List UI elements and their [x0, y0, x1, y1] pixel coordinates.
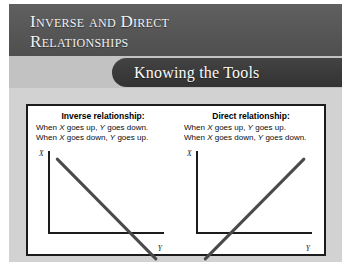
- text-pre: When: [184, 133, 207, 142]
- chart-direct-y-axis-label: X: [187, 149, 192, 158]
- text-post: goes up.: [253, 123, 286, 132]
- text-post: goes down.: [105, 123, 148, 132]
- chart-inverse-plot: [48, 151, 164, 234]
- title-banner: Inverse and Direct Relationships: [9, 4, 342, 56]
- panel-direct-line-2: When X goes down, Y goes down.: [184, 133, 318, 143]
- chart-inverse-data-line: [48, 151, 164, 267]
- chart-inverse: X Y: [36, 148, 170, 244]
- panel-inverse-line-1: When X goes up, Y goes down.: [36, 123, 170, 133]
- text-post: goes down.: [263, 133, 306, 142]
- content-box: Inverse relationship: When X goes up, Y …: [26, 104, 326, 256]
- text-mid: goes down,: [212, 133, 257, 142]
- page-title: Inverse and Direct Relationships: [30, 12, 330, 52]
- chart-direct-data-line: [196, 151, 312, 267]
- panel-direct: Direct relationship: When X goes up, Y g…: [176, 106, 324, 254]
- panel-inverse-heading: Inverse relationship:: [36, 111, 170, 122]
- chart-direct-plot: [196, 151, 312, 234]
- slide: Inverse and Direct Relationships Knowing…: [0, 0, 354, 275]
- text-mid: goes down,: [64, 133, 109, 142]
- text-pre: When: [184, 123, 207, 132]
- chart-direct-x-axis-label: Y: [306, 244, 310, 253]
- section-band-label: Knowing the Tools: [134, 62, 260, 83]
- panel-inverse-line-2: When X goes down, Y goes up.: [36, 133, 170, 143]
- text-mid: goes up,: [212, 123, 247, 132]
- panel-direct-heading: Direct relationship:: [184, 111, 318, 122]
- section-band: Knowing the Tools: [112, 58, 342, 87]
- panel-direct-line-1: When X goes up, Y goes up.: [184, 123, 318, 133]
- chart-inverse-x-axis-label: Y: [158, 244, 162, 253]
- text-post: goes up.: [115, 133, 148, 142]
- text-pre: When: [36, 123, 59, 132]
- panel-inverse: Inverse relationship: When X goes up, Y …: [28, 106, 176, 254]
- chart-inverse-y-axis-label: X: [39, 149, 44, 158]
- panels-container: Inverse relationship: When X goes up, Y …: [28, 106, 324, 254]
- text-mid: goes up,: [64, 123, 99, 132]
- text-pre: When: [36, 133, 59, 142]
- chart-direct: X Y: [184, 148, 318, 244]
